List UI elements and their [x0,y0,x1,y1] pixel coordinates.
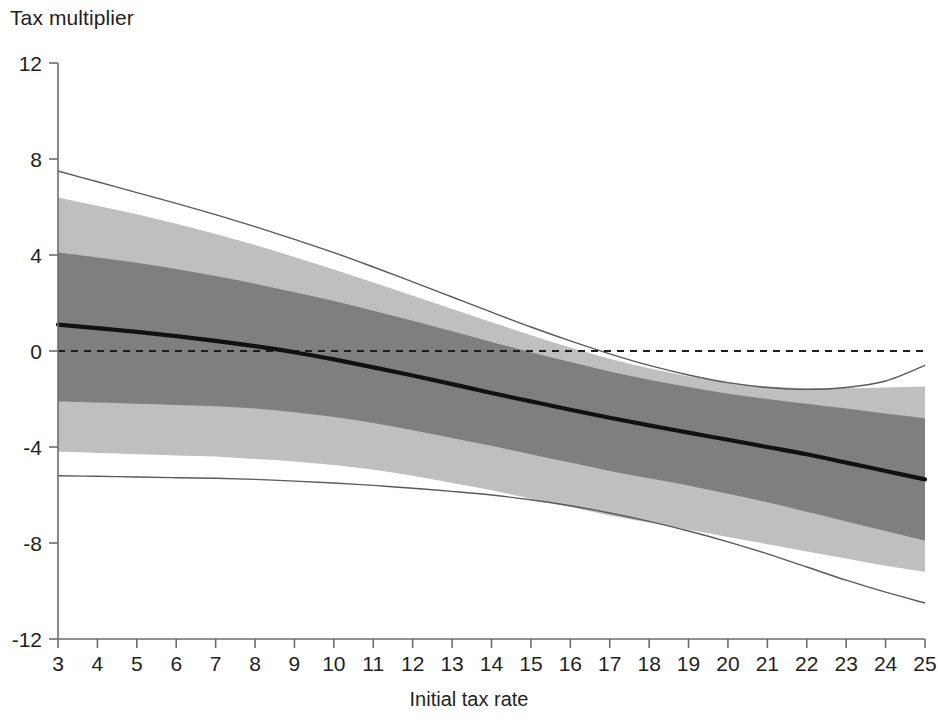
x-tick-label: 3 [52,652,64,675]
y-tick-label: -4 [23,436,42,459]
y-tick-label: -12 [12,628,42,651]
x-tick-label: 8 [249,652,261,675]
chart-figure: Tax multiplier 12840-4-8-123456789101112… [0,0,938,720]
x-tick-label: 13 [440,652,463,675]
tax-multiplier-plot: 12840-4-8-123456789101112131415161718192… [0,0,938,720]
x-tick-label: 24 [874,652,898,675]
x-tick-label: 6 [170,652,182,675]
x-tick-label: 22 [795,652,818,675]
x-tick-label: 7 [210,652,222,675]
x-tick-label: 12 [401,652,424,675]
x-tick-label: 18 [637,652,660,675]
x-tick-label: 23 [835,652,858,675]
x-tick-label: 11 [362,652,384,675]
x-tick-label: 10 [322,652,345,675]
x-axis-label: Initial tax rate [0,688,938,711]
x-tick-label: 21 [756,652,779,675]
y-tick-label: 4 [30,244,42,267]
x-tick-label: 14 [480,652,504,675]
x-tick-label: 25 [913,652,936,675]
y-tick-label: -8 [23,532,42,555]
y-tick-label: 8 [30,148,42,171]
y-tick-label: 0 [30,340,42,363]
y-tick-label: 12 [19,52,42,75]
x-tick-label: 16 [559,652,582,675]
x-tick-label: 4 [92,652,104,675]
x-tick-label: 5 [131,652,143,675]
x-tick-label: 20 [716,652,739,675]
x-tick-label: 9 [289,652,301,675]
x-tick-label: 17 [598,652,621,675]
x-tick-label: 15 [519,652,542,675]
x-tick-label: 19 [677,652,700,675]
